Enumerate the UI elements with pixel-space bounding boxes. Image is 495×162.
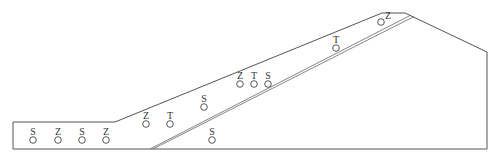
marker-label: S <box>209 126 215 137</box>
marker-circle-icon <box>201 104 208 111</box>
marker-circle-icon <box>30 137 37 144</box>
marker-label: S <box>30 126 36 137</box>
sample-marker: S <box>265 70 272 87</box>
sample-marker: S <box>201 93 208 110</box>
marker-label: Z <box>143 110 149 121</box>
cross-section-diagram: SZSZZTSSZTSTZ <box>0 0 495 162</box>
sample-marker: Z <box>143 110 150 127</box>
marker-label: S <box>265 70 271 81</box>
sample-marker: Z <box>55 126 62 143</box>
sample-markers: SZSZZTSSZTSTZ <box>30 10 391 143</box>
marker-circle-icon <box>209 137 216 144</box>
marker-circle-icon <box>251 81 258 88</box>
sample-marker: S <box>30 126 37 143</box>
marker-circle-icon <box>103 137 110 144</box>
sample-marker: Z <box>378 10 391 25</box>
sample-marker: T <box>167 110 174 127</box>
marker-label: Z <box>55 126 61 137</box>
sample-marker: Z <box>103 126 110 143</box>
marker-circle-icon <box>143 121 150 128</box>
marker-circle-icon <box>79 137 86 144</box>
marker-label: S <box>79 126 85 137</box>
marker-label: T <box>333 34 339 45</box>
marker-circle-icon <box>265 81 272 88</box>
inner-line-upper <box>150 15 411 149</box>
marker-circle-icon <box>167 121 174 128</box>
marker-label: T <box>251 70 257 81</box>
sample-marker: S <box>209 126 216 143</box>
marker-circle-icon <box>378 19 385 26</box>
marker-label: S <box>201 93 207 104</box>
sample-marker: T <box>251 70 258 87</box>
sample-marker: T <box>333 34 340 51</box>
marker-label: Z <box>237 70 243 81</box>
inner-double-line <box>150 15 414 149</box>
marker-circle-icon <box>55 137 62 144</box>
marker-circle-icon <box>333 45 340 52</box>
marker-label: Z <box>385 10 391 21</box>
sample-marker: Z <box>237 70 244 87</box>
sample-marker: S <box>79 126 86 143</box>
marker-label: T <box>167 110 173 121</box>
marker-label: Z <box>103 126 109 137</box>
marker-circle-icon <box>237 81 244 88</box>
inner-line-lower <box>153 17 414 150</box>
